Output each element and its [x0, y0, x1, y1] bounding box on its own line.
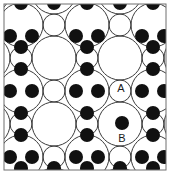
- filled-atom: [115, 116, 129, 130]
- filled-atom: [25, 84, 39, 98]
- filled-atom: [3, 29, 17, 43]
- lattice-figure: AB: [0, 0, 170, 177]
- filled-atom: [3, 84, 17, 98]
- filled-atom: [14, 106, 28, 120]
- filled-atom: [91, 84, 105, 98]
- filled-atom: [80, 40, 94, 54]
- filled-atom: [14, 128, 28, 142]
- filled-atom: [146, 62, 160, 76]
- filled-atom: [69, 29, 83, 43]
- filled-atom: [14, 40, 28, 54]
- site-label-a: A: [117, 82, 125, 94]
- filled-atom: [80, 106, 94, 120]
- filled-atom: [3, 150, 17, 164]
- filled-atom: [146, 40, 160, 54]
- filled-atom: [146, 128, 160, 142]
- lattice-diagram-svg: AB: [0, 0, 170, 177]
- filled-atom: [135, 150, 149, 164]
- filled-atom: [69, 84, 83, 98]
- filled-atom: [146, 106, 160, 120]
- filled-atom: [91, 150, 105, 164]
- filled-atom: [69, 150, 83, 164]
- filled-atom: [135, 84, 149, 98]
- filled-atom: [91, 29, 105, 43]
- filled-atom: [25, 150, 39, 164]
- filled-atom: [14, 62, 28, 76]
- filled-atom: [135, 29, 149, 43]
- filled-atom: [80, 62, 94, 76]
- site-label-b: B: [118, 132, 125, 144]
- filled-atom: [80, 128, 94, 142]
- filled-atom: [25, 29, 39, 43]
